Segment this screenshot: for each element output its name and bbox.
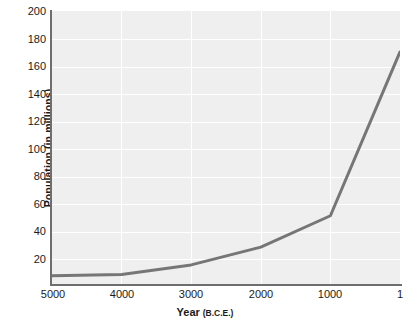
x-tick-label: 4000 (110, 289, 134, 300)
y-tick-label: 100 (16, 144, 46, 155)
y-tick-label: 160 (16, 61, 46, 72)
y-tick-label: 20 (16, 254, 46, 265)
x-tick-label: 1 (397, 289, 403, 300)
x-axis-tick-labels: 5000 4000 3000 2000 1000 1 (0, 289, 410, 305)
x-axis-title: Year (B.C.E.) (0, 306, 410, 318)
y-tick-label: 80 (16, 171, 46, 182)
x-axis-line (50, 284, 402, 286)
y-tick-label: 140 (16, 89, 46, 100)
plot-area (52, 11, 400, 284)
y-tick-label: 200 (16, 6, 46, 17)
y-axis-line (50, 10, 52, 286)
x-tick-label: 5000 (41, 289, 65, 300)
y-tick-label: 180 (16, 34, 46, 45)
series-line-world-population (52, 11, 400, 284)
y-tick-label: 60 (16, 199, 46, 210)
x-tick-label: 3000 (179, 289, 203, 300)
x-tick-label: 1000 (318, 289, 342, 300)
x-axis-title-unit: (B.C.E.) (203, 308, 234, 318)
population-line-chart: Population (in millions) 200 180 160 140… (0, 0, 410, 322)
x-axis-title-main: Year (177, 306, 200, 318)
y-axis-tick-labels: 200 180 160 140 120 100 80 60 40 20 (14, 0, 46, 322)
x-tick-label: 2000 (249, 289, 273, 300)
y-tick-label: 40 (16, 226, 46, 237)
y-tick-label: 120 (16, 116, 46, 127)
